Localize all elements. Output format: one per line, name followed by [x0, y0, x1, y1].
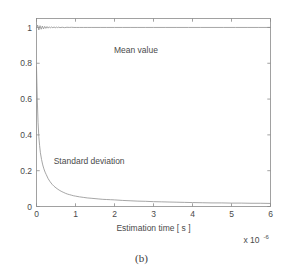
y-tick-label: 0.6	[20, 94, 32, 104]
annotation-mean-value: Mean value	[114, 45, 158, 55]
x-axis-exponent: x 10	[244, 235, 260, 245]
x-tick-label: 0	[34, 209, 39, 219]
y-tick-label: 0.8	[20, 58, 32, 68]
figure-caption: (b)	[0, 252, 283, 264]
series-line-standard-deviation	[37, 67, 271, 204]
x-tick-label: 3	[151, 209, 156, 219]
y-tick-label: 1	[27, 23, 32, 33]
x-tick-label: 1	[73, 209, 78, 219]
annotation-standard-deviation: Standard deviation	[54, 156, 125, 166]
series-line-mean-value	[37, 25, 271, 30]
figure-panel: 012345600.20.40.60.81Mean valueStandard …	[0, 0, 283, 280]
x-tick-label: 6	[268, 209, 273, 219]
x-tick-label: 4	[190, 209, 195, 219]
x-tick-label: 2	[112, 209, 117, 219]
y-tick-label: 0.4	[20, 130, 32, 140]
x-axis-title: Estimation time [ s ]	[116, 223, 190, 233]
x-tick-label: 5	[229, 209, 234, 219]
y-tick-label: 0	[27, 202, 32, 212]
x-axis-exponent-power: -6	[264, 234, 270, 240]
chart-plot-area: 012345600.20.40.60.81Mean valueStandard …	[0, 0, 283, 250]
y-tick-label: 0.2	[20, 166, 32, 176]
chart-svg: 012345600.20.40.60.81Mean valueStandard …	[0, 0, 283, 250]
